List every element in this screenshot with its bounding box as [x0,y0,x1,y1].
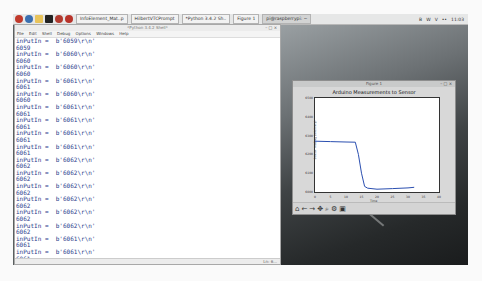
python-shell-window: *Python 3.4.2 Shell* – □ × File Edit She… [14,24,281,265]
figure-window-title: Figure 1 [366,81,382,86]
status-bar: Ln: 6... [15,258,280,264]
x-tick-label: 5 [326,195,336,199]
shell-line: inPutIn = b'6061\r\n' [16,144,280,151]
back-icon[interactable]: ← [301,204,307,214]
forward-icon[interactable]: → [309,204,315,214]
shell-line: inPutIn = b'6062\r\n' [16,157,280,164]
menu-debug[interactable]: Debug [57,31,70,36]
figure-canvas: Arduino Measurements to Sensor Sensor re… [293,87,455,202]
shell-line: inPutIn = b'6062\r\n' [16,170,280,177]
volume-icon[interactable]: V [435,17,438,22]
plot-axes[interactable]: Sensor reading (arbitrary) Time 65006400… [314,97,440,193]
task-python-shell[interactable]: *Python 3.4.2 Sh.. [182,14,231,24]
clock[interactable]: 11:03 [451,17,464,22]
configure-icon[interactable]: ⚙ [331,204,337,214]
save-icon[interactable]: ▣ [339,204,346,214]
home-icon[interactable]: ⌂ [295,204,299,214]
desktop-screen: InfoElement_Mat..p HilbertVTCPrompt *Pyt… [13,14,468,265]
shell-line: inPutIn = b'6061\r\n' [16,78,280,85]
wolfram-icon[interactable] [65,15,73,23]
task-figure-1[interactable]: Figure 1 [233,14,259,24]
bluetooth-icon[interactable]: B [419,17,422,22]
plot-title: Arduino Measurements to Sensor [293,89,455,95]
shell-line: inPutIn = b'6062\r\n' [16,209,280,216]
x-tick-label: 0 [310,195,320,199]
x-tick-label: 10 [341,195,351,199]
figure-toolbar: ⌂ ← → ✥ ⌕ ⚙ ▣ [293,202,455,214]
zoom-icon[interactable]: ⌕ [325,204,329,214]
y-tick-label: 6000 [302,190,313,194]
x-tick-label: 30 [403,195,413,199]
matplotlib-figure-window: Figure 1 – □ × Arduino Measurements to S… [292,80,456,215]
menu-shell[interactable]: Shell [42,31,52,36]
window-controls[interactable]: – □ × [265,25,277,31]
shell-line: inPutIn = b'6062\r\n' [16,183,280,190]
x-tick-label: 35 [419,195,429,199]
mathematica-icon[interactable] [55,15,63,23]
shell-output[interactable]: inPutIn = b'6059\r\n'6059inPutIn = b'606… [15,38,280,262]
shell-line: inPutIn = b'6061\r\n' [16,249,280,256]
shell-line: inPutIn = b'6062\r\n' [16,223,280,230]
cpu-monitor-icon: •• [442,17,447,22]
shell-line: inPutIn = b'6062\r\n' [16,196,280,203]
task-hilbert[interactable]: HilbertVTCPrompt [131,14,179,24]
y-tick-label: 6500 [302,96,313,100]
menu-windows[interactable]: Windows [96,31,114,36]
window-title-bar[interactable]: *Python 3.4.2 Shell* – □ × [15,25,280,31]
menu-options[interactable]: Options [76,31,91,36]
task-infoelement[interactable]: InfoElement_Mat..p [76,14,128,24]
x-tick-label: 25 [388,195,398,199]
browser-icon[interactable] [25,15,33,23]
shell-line: inPutIn = b'6060\r\n' [16,64,280,71]
x-tick-label: 40 [434,195,444,199]
terminal-icon[interactable] [45,15,53,23]
y-tick-label: 6100 [302,171,313,175]
shell-line: inPutIn = b'6061\r\n' [16,117,280,124]
task-terminal[interactable]: pi@raspberrypi: ~ [262,14,311,24]
wifi-icon[interactable]: W [426,17,430,22]
system-tray: B W V •• 11:03 [419,17,468,22]
window-title: *Python 3.4.2 Shell* [127,25,167,30]
data-line [315,98,439,192]
menu-help[interactable]: Help [119,31,128,36]
file-manager-icon[interactable] [35,15,43,23]
shell-line: inPutIn = b'6061\r\n' [16,104,280,111]
x-tick-label: 20 [372,195,382,199]
shell-line: inPutIn = b'6060\r\n' [16,51,280,58]
y-tick-label: 6200 [302,152,313,156]
y-tick-label: 6400 [302,115,313,119]
menu-edit[interactable]: Edit [29,31,37,36]
shell-line: inPutIn = b'6061\r\n' [16,236,280,243]
y-tick-label: 6300 [302,134,313,138]
pan-icon[interactable]: ✥ [317,204,323,214]
shell-line: inPutIn = b'6061\r\n' [16,130,280,137]
x-tick-label: 15 [357,195,367,199]
shell-line: inPutIn = b'6059\r\n' [16,38,280,45]
raspberry-menu-icon[interactable] [15,15,23,23]
menu-file[interactable]: File [17,31,24,36]
shell-line: inPutIn = b'6060\r\n' [16,91,280,98]
